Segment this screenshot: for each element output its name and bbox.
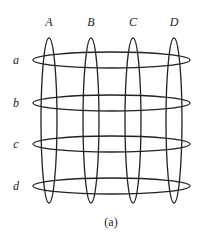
grid-ellipse-diagram: A B C D a b c d (a) <box>0 0 205 244</box>
figure-caption: (a) <box>104 215 117 229</box>
row-label-b: b <box>13 96 19 110</box>
column-label-c: C <box>129 15 138 29</box>
row-label-a: a <box>13 53 19 67</box>
row-label-d: d <box>13 179 20 193</box>
row-ellipse-d <box>33 178 190 194</box>
column-ellipse-d <box>166 38 182 203</box>
column-label-d: D <box>169 15 179 29</box>
row-label-c: c <box>13 137 19 151</box>
column-ellipse-a <box>41 38 57 203</box>
row-ellipse-a <box>33 52 190 68</box>
column-label-a: A <box>44 15 53 29</box>
column-label-b: B <box>87 15 95 29</box>
